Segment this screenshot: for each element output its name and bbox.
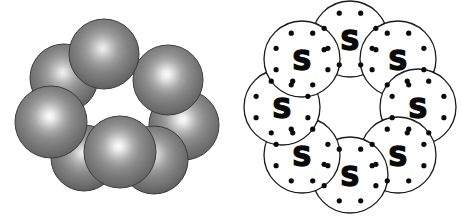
valence-electron-dot xyxy=(337,147,342,152)
valence-electron-dot xyxy=(322,26,327,31)
valence-electron-dot xyxy=(325,142,330,147)
lewis-structure-svg: SSSSSSSS xyxy=(231,0,462,219)
valence-electron-dot xyxy=(390,94,395,99)
atom-symbol-label: S xyxy=(388,45,407,76)
valence-electron-dot xyxy=(310,82,315,87)
atom-symbol-label: S xyxy=(408,93,427,124)
valence-electron-dot xyxy=(269,79,274,84)
valence-electron-dot xyxy=(274,67,279,72)
valence-electron-dot xyxy=(305,94,310,99)
valence-electron-dot xyxy=(289,31,294,36)
sulfur-s8-figure: SSSSSSSS xyxy=(0,0,462,219)
valence-electron-dot xyxy=(405,79,410,84)
valence-electron-dot xyxy=(254,115,259,120)
valence-electron-dot xyxy=(322,183,327,188)
atom-symbol-label: S xyxy=(340,25,359,56)
sphere-atom xyxy=(69,19,139,89)
valence-electron-dot xyxy=(370,142,375,147)
valence-electron-dot xyxy=(358,198,363,203)
lewis-atom-group: SSSSSSSS xyxy=(244,1,456,213)
valence-electron-dot xyxy=(373,183,378,188)
valence-electron-dot xyxy=(406,31,411,36)
sphere-body xyxy=(15,86,87,158)
valence-electron-dot xyxy=(325,163,330,168)
valence-electron-dot xyxy=(421,46,426,51)
valence-electron-dot xyxy=(421,163,426,168)
valence-electron-dot xyxy=(269,130,274,135)
sphere-body xyxy=(69,19,139,89)
sphere-body xyxy=(84,116,156,188)
atom-symbol-label: S xyxy=(272,93,291,124)
valence-electron-dot xyxy=(441,94,446,99)
valence-electron-dot xyxy=(406,127,411,132)
valence-electron-dot xyxy=(373,162,378,167)
atom-symbol-label: S xyxy=(388,141,407,172)
valence-electron-dot xyxy=(337,62,342,67)
valence-electron-dot xyxy=(325,67,330,72)
sphere-body xyxy=(133,45,203,115)
valence-electron-dot xyxy=(426,79,431,84)
valence-electron-dot xyxy=(310,127,315,132)
valence-electron-dot xyxy=(274,46,279,51)
atom-symbol-label: S xyxy=(292,141,311,172)
valence-electron-dot xyxy=(337,198,342,203)
valence-electron-dot xyxy=(310,31,315,36)
valence-electron-dot xyxy=(441,115,446,120)
valence-electron-dot xyxy=(373,26,378,31)
valence-electron-dot xyxy=(421,142,426,147)
valence-electron-dot xyxy=(385,31,390,36)
valence-electron-dot xyxy=(406,178,411,183)
space-filling-svg xyxy=(0,0,231,219)
valence-electron-dot xyxy=(274,163,279,168)
valence-electron-dot xyxy=(390,115,395,120)
valence-electron-dot xyxy=(426,130,431,135)
valence-electron-dot xyxy=(289,82,294,87)
valence-electron-dot xyxy=(385,127,390,132)
atom-symbol-label: S xyxy=(292,45,311,76)
valence-electron-dot xyxy=(358,62,363,67)
sphere-atom xyxy=(84,116,156,188)
valence-electron-dot xyxy=(290,130,295,135)
valence-electron-dot xyxy=(358,11,363,16)
valence-electron-dot xyxy=(325,46,330,51)
valence-electron-dot xyxy=(370,67,375,72)
valence-electron-dot xyxy=(421,67,426,72)
valence-electron-dot xyxy=(385,178,390,183)
lewis-structure-panel: SSSSSSSS xyxy=(231,0,462,219)
atom-symbol-label: S xyxy=(340,161,359,192)
valence-electron-dot xyxy=(385,82,390,87)
valence-electron-dot xyxy=(337,11,342,16)
valence-electron-dot xyxy=(274,142,279,147)
valence-electron-dot xyxy=(310,178,315,183)
valence-electron-dot xyxy=(358,147,363,152)
space-filling-model-panel xyxy=(0,0,231,219)
sphere-atom xyxy=(15,86,87,158)
valence-electron-dot xyxy=(305,115,310,120)
sphere-group xyxy=(15,19,219,194)
valence-electron-dot xyxy=(289,178,294,183)
sphere-atom xyxy=(133,45,203,115)
valence-electron-dot xyxy=(254,94,259,99)
valence-electron-dot xyxy=(370,46,375,51)
